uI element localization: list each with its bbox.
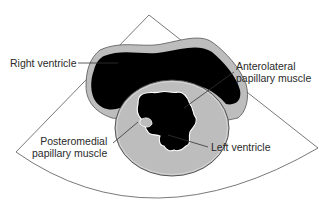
diagram-canvas: Right ventricle Anterolateral papillary … — [0, 0, 319, 217]
label-posteromedial-line1: Posteromedial — [32, 135, 107, 147]
label-anterolateral-line1: Anterolateral — [236, 60, 311, 72]
label-posteromedial-line2: papillary muscle — [32, 147, 107, 159]
echo-sector-figure — [0, 0, 319, 217]
posteromedial-papillary-muscle — [140, 118, 152, 127]
label-right-ventricle: Right ventricle — [10, 57, 77, 69]
label-left-ventricle: Left ventricle — [211, 141, 271, 153]
label-posteromedial-papillary-muscle: Posteromedial papillary muscle — [32, 135, 107, 159]
label-anterolateral-papillary-muscle: Anterolateral papillary muscle — [236, 60, 311, 84]
label-anterolateral-line2: papillary muscle — [236, 72, 311, 84]
